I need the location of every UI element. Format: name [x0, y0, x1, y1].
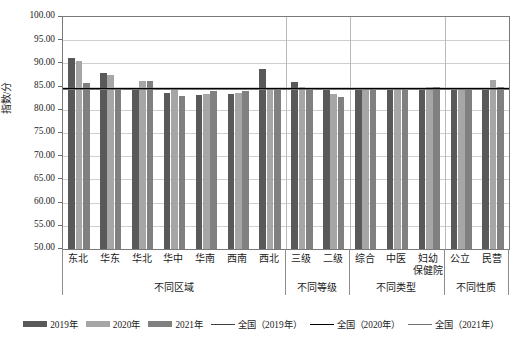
legend-item[interactable]: 2019年	[23, 317, 78, 331]
legend-swatch-line	[211, 324, 235, 325]
legend-swatch-bar	[148, 321, 172, 327]
chart-legend: 2019年2020年2021年全国（2019年）全国（2020年）全国（2021…	[0, 316, 522, 332]
y-tick-label: 55.00	[34, 220, 55, 229]
legend-label: 2021年	[175, 317, 203, 331]
y-tick-label: 60.00	[34, 197, 55, 206]
y-tick-label: 85.00	[34, 81, 55, 90]
group-divider	[444, 249, 445, 295]
y-tick-label: 65.00	[34, 174, 55, 183]
reference-line	[63, 89, 509, 90]
y-tick-label: 100.00	[29, 11, 55, 20]
legend-label: 全国（2019年）	[238, 317, 302, 331]
legend-swatch-line	[310, 324, 334, 325]
x-group-label: 不同区域	[62, 279, 285, 294]
legend-swatch-bar	[23, 321, 47, 327]
y-axis-title: 指数/分	[0, 63, 13, 133]
legend-label: 2019年	[50, 317, 78, 331]
y-tick-label: 75.00	[34, 127, 55, 136]
y-tick-label: 80.00	[34, 104, 55, 113]
x-group-label: 不同等级	[285, 279, 349, 294]
legend-item[interactable]: 2020年	[86, 317, 141, 331]
plot-area	[62, 16, 510, 250]
legend-item[interactable]: 2021年	[148, 317, 203, 331]
legend-swatch-bar	[86, 321, 110, 327]
group-divider	[285, 249, 286, 295]
legend-item[interactable]: 全国（2021年）	[408, 317, 499, 331]
legend-item[interactable]: 全国（2019年）	[211, 317, 302, 331]
y-tick-label: 95.00	[34, 35, 55, 44]
legend-swatch-line	[408, 324, 432, 325]
chart-root: 100.0095.0090.0085.0080.0075.0070.0065.0…	[0, 0, 522, 338]
legend-label: 全国（2020年）	[337, 317, 401, 331]
x-axis-groups: 不同区域不同等级不同类型不同性质	[62, 249, 510, 295]
legend-item[interactable]: 全国（2020年）	[310, 317, 401, 331]
legend-label: 全国（2021年）	[435, 317, 499, 331]
group-divider	[62, 249, 63, 295]
group-divider	[508, 249, 509, 295]
reference-lines-layer	[63, 17, 509, 249]
y-tick-label: 50.00	[34, 243, 55, 252]
y-tick-label: 90.00	[34, 58, 55, 67]
y-axis-ticks: 100.0095.0090.0085.0080.0075.0070.0065.0…	[0, 16, 62, 250]
x-group-label: 不同性质	[444, 279, 508, 294]
group-divider	[349, 249, 350, 295]
legend-label: 2020年	[113, 317, 141, 331]
y-tick-label: 70.00	[34, 151, 55, 160]
x-group-label: 不同类型	[349, 279, 445, 294]
